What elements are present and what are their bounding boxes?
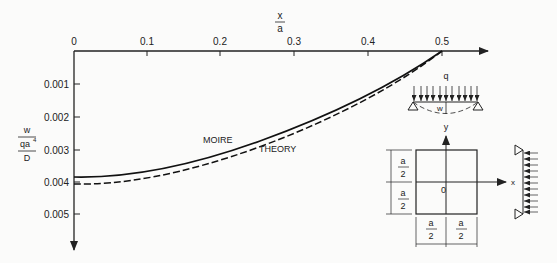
series-moire-line (74, 51, 442, 177)
x-axis-label: x a (275, 10, 285, 34)
svg-text:4: 4 (33, 137, 37, 143)
svg-text:2: 2 (428, 231, 433, 241)
label-moire: MOIRE (203, 135, 233, 145)
svg-text:0.005: 0.005 (44, 209, 69, 220)
side-load-diagram (515, 145, 538, 219)
svg-text:2: 2 (458, 231, 463, 241)
svg-text:0: 0 (71, 36, 77, 47)
svg-text:w: w (23, 125, 31, 135)
svg-text:a: a (277, 23, 283, 34)
svg-text:qa: qa (20, 139, 30, 149)
svg-text:D: D (24, 153, 31, 163)
svg-text:0.3: 0.3 (287, 36, 301, 47)
chart-canvas: x a 0 0.1 0.2 0.3 0.4 0.5 0.001 0.002 0.… (0, 0, 557, 263)
svg-text:x: x (511, 178, 515, 187)
beam-load-diagram: q w (408, 71, 483, 114)
svg-text:0.002: 0.002 (44, 112, 69, 123)
svg-text:x: x (278, 10, 283, 21)
svg-text:a: a (400, 156, 405, 166)
svg-text:2: 2 (400, 169, 405, 179)
svg-text:0.1: 0.1 (140, 36, 154, 47)
svg-text:a: a (400, 188, 405, 198)
svg-text:0.003: 0.003 (44, 145, 69, 156)
plate-diagram: y x 0 a 2 a 2 a 2 a (386, 122, 515, 247)
svg-text:2: 2 (400, 201, 405, 211)
svg-text:0.001: 0.001 (44, 79, 69, 90)
svg-text:0.5: 0.5 (435, 36, 449, 47)
svg-text:a: a (428, 218, 433, 228)
svg-text:a: a (458, 218, 463, 228)
x-ticks: 0 0.1 0.2 0.3 0.4 0.5 (71, 36, 449, 56)
svg-text:0.4: 0.4 (361, 36, 375, 47)
svg-text:w: w (436, 104, 443, 113)
y-axis-label: w qa 4 D (18, 125, 37, 163)
label-theory: THEORY (259, 144, 296, 154)
svg-text:q: q (443, 71, 448, 81)
svg-text:0.2: 0.2 (213, 36, 227, 47)
svg-text:0: 0 (441, 185, 446, 195)
svg-text:y: y (444, 122, 449, 132)
svg-text:0.004: 0.004 (44, 177, 69, 188)
series-theory-line (74, 51, 442, 184)
